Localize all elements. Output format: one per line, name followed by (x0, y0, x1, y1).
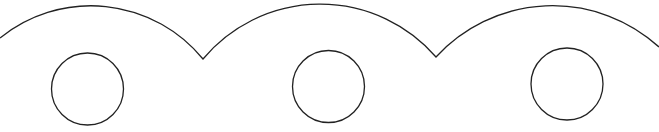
circle-middle (293, 51, 365, 123)
circle-right (531, 48, 603, 120)
circle-left (52, 53, 124, 125)
diagram-canvas (0, 0, 659, 132)
scalloped-arcs-diagram (0, 0, 659, 132)
